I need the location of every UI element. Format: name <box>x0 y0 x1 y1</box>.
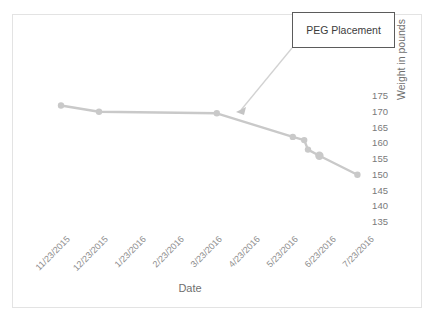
y-axis-tick-145: 145 <box>372 185 388 196</box>
data-point-5 <box>305 146 311 152</box>
data-point-3 <box>290 134 296 140</box>
y-axis-tick-170: 170 <box>372 106 388 117</box>
y-axis-tick-160: 160 <box>372 137 388 148</box>
data-point-0 <box>58 102 64 108</box>
y-axis-tick-140: 140 <box>372 200 388 211</box>
data-point-1 <box>96 109 102 115</box>
weight-series <box>58 102 361 178</box>
y-axis-tick-175: 175 <box>372 90 388 101</box>
chart-screenshot: 175170165160155150145140135 Weight in po… <box>0 0 434 323</box>
y-axis-tick-165: 165 <box>372 122 388 133</box>
y-axis-tick-155: 155 <box>372 153 388 164</box>
peg-placement-label: PEG Placement <box>306 24 381 36</box>
peg-placement-callout: PEG Placement <box>292 12 395 48</box>
y-axis-title: Weight in pounds <box>395 0 407 100</box>
data-point-4 <box>301 137 307 143</box>
x-axis-title-text: Date <box>178 282 201 294</box>
data-point-2 <box>214 110 220 116</box>
callout-leader <box>236 48 292 115</box>
data-point-7 <box>354 172 360 178</box>
data-point-6 <box>315 152 323 160</box>
x-axis-title: Date <box>0 282 380 294</box>
y-axis-title-text: Weight in pounds <box>395 0 407 100</box>
y-axis-tick-135: 135 <box>372 216 388 227</box>
weight-line <box>61 106 357 175</box>
y-axis-tick-150: 150 <box>372 169 388 180</box>
callout-arrowhead <box>236 107 246 115</box>
callout-leader-line <box>241 48 292 110</box>
